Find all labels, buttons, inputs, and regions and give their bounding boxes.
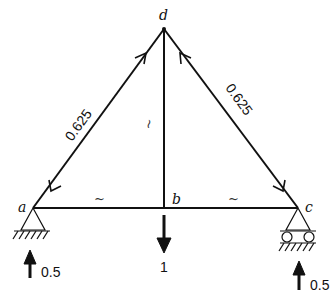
force-label-bd: ~: [140, 117, 157, 130]
force-label-bc: ~: [228, 191, 239, 206]
arrow-ad-toward-a-icon: [49, 180, 61, 191]
load-label-b: 1: [160, 259, 168, 275]
reaction-arrow-a-icon: [24, 250, 36, 278]
node-label-d: d: [159, 7, 168, 23]
member-cd: [164, 29, 298, 208]
reaction-arrow-c-icon: [293, 261, 305, 290]
force-label-ab: ~: [94, 191, 105, 206]
truss-diagram: d a b c 0.625 0.625 ~ ~ ~ 1: [0, 0, 335, 296]
node-d: [162, 27, 166, 31]
reaction-label-c: 0.5: [310, 277, 330, 293]
reaction-label-a: 0.5: [41, 264, 61, 280]
node-label-b: b: [172, 191, 181, 207]
load-arrow-b-icon: [157, 215, 171, 253]
node-label-c: c: [305, 199, 313, 215]
node-label-a: a: [18, 199, 26, 215]
force-label-ad: 0.625: [61, 106, 95, 144]
